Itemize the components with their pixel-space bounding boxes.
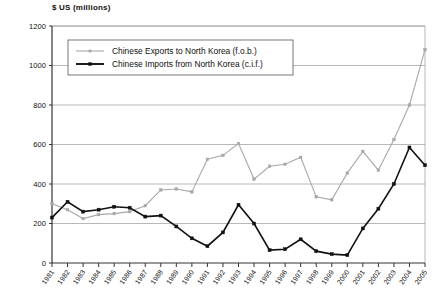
x-tick-label: 1985: [103, 269, 118, 286]
data-point: [66, 208, 69, 211]
data-point: [408, 104, 411, 107]
data-point: [346, 254, 349, 257]
data-point: [315, 196, 318, 199]
data-point: [424, 48, 427, 51]
data-point: [113, 212, 116, 215]
data-point: [206, 158, 209, 161]
data-point: [66, 200, 69, 203]
legend-label: Chinese Exports to North Korea (f.o.b.): [112, 46, 257, 56]
legend-swatch-marker: [88, 62, 91, 65]
data-point: [377, 207, 380, 210]
y-tick-label: 200: [33, 219, 46, 228]
y-tick-label: 1200: [29, 22, 46, 31]
data-point: [237, 142, 240, 145]
x-axis-ticks: 1981198219831984198519861987198819891990…: [40, 263, 428, 286]
data-point: [206, 245, 209, 248]
x-tick-label: 1991: [196, 269, 211, 286]
y-tick-label: 600: [33, 140, 46, 149]
data-point: [128, 206, 131, 209]
data-point: [144, 204, 147, 207]
x-tick-label: 1984: [87, 269, 102, 286]
series-layer: [51, 48, 427, 256]
data-point: [284, 163, 287, 166]
chart-legend: Chinese Exports to North Korea (f.o.b.)C…: [68, 40, 293, 75]
data-point: [144, 215, 147, 218]
x-tick-label: 2003: [382, 269, 397, 286]
y-tick-label: 400: [33, 180, 46, 189]
data-point: [190, 237, 193, 240]
x-tick-label: 1995: [258, 269, 273, 286]
data-point: [159, 214, 162, 217]
data-point: [299, 238, 302, 241]
y-tick-label: 800: [33, 101, 46, 110]
data-point: [408, 146, 411, 149]
data-point: [51, 202, 54, 205]
series-imports: [51, 146, 427, 257]
data-point: [424, 164, 427, 167]
data-point: [346, 172, 349, 175]
x-tick-label: 2000: [336, 269, 351, 286]
legend-swatch-marker: [89, 50, 92, 53]
data-point: [237, 203, 240, 206]
x-tick-label: 1993: [227, 269, 242, 286]
data-point: [82, 217, 85, 220]
legend-label: Chinese Imports from North Korea (c.i.f.…: [112, 59, 263, 69]
data-point: [299, 156, 302, 159]
x-tick-label: 1986: [118, 269, 133, 286]
data-point: [191, 191, 194, 194]
y-tick-label: 0: [42, 259, 46, 268]
data-point: [361, 227, 364, 230]
data-point: [175, 225, 178, 228]
x-tick-label: 1987: [134, 269, 149, 286]
data-point: [392, 183, 395, 186]
data-point: [315, 250, 318, 253]
x-tick-label: 1999: [320, 269, 335, 286]
data-point: [97, 213, 100, 216]
data-point: [113, 205, 116, 208]
data-point: [51, 216, 54, 219]
series-line: [52, 147, 425, 255]
data-point: [393, 138, 396, 141]
data-point: [159, 189, 162, 192]
data-point: [97, 208, 100, 211]
chart-container: $ US (millions) 020040060080010001200 19…: [0, 0, 443, 304]
x-tick-label: 1982: [56, 269, 71, 286]
chart-svg: 020040060080010001200 198119821983198419…: [0, 0, 443, 304]
data-point: [221, 231, 224, 234]
y-axis-ticks: 020040060080010001200: [29, 22, 52, 268]
x-tick-label: 1981: [40, 269, 55, 286]
data-point: [362, 150, 365, 153]
x-tick-label: 1990: [180, 269, 195, 286]
x-tick-label: 2001: [351, 269, 366, 286]
data-point: [284, 248, 287, 251]
data-point: [268, 165, 271, 168]
x-tick-label: 1996: [274, 269, 289, 286]
data-point: [82, 210, 85, 213]
data-point: [253, 222, 256, 225]
data-point: [268, 249, 271, 252]
data-point: [175, 188, 178, 191]
x-tick-label: 1989: [165, 269, 180, 286]
data-point: [253, 178, 256, 181]
x-tick-label: 1998: [305, 269, 320, 286]
data-point: [330, 199, 333, 202]
x-tick-label: 1983: [72, 269, 87, 286]
data-point: [222, 154, 225, 157]
x-tick-label: 1988: [149, 269, 164, 286]
data-point: [128, 210, 131, 213]
x-tick-label: 2005: [413, 269, 428, 286]
x-tick-label: 2002: [367, 269, 382, 286]
y-tick-label: 1000: [29, 61, 46, 70]
data-point: [330, 253, 333, 256]
x-tick-label: 2004: [398, 269, 413, 286]
x-tick-label: 1992: [211, 269, 226, 286]
x-tick-label: 1997: [289, 269, 304, 286]
data-point: [377, 169, 380, 172]
x-tick-label: 1994: [242, 269, 257, 286]
